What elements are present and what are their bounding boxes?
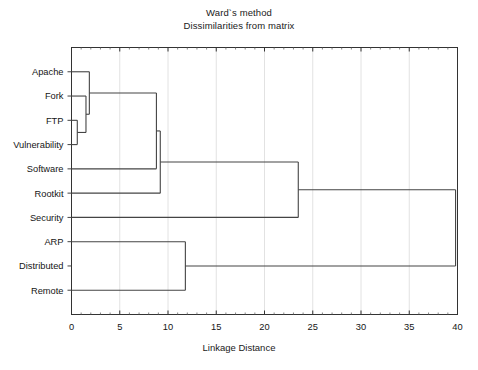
leaf-label: ARP — [44, 237, 63, 247]
x-tick-label: 30 — [356, 322, 366, 332]
x-tick-label: 25 — [308, 322, 318, 332]
leaf-label: Rootkit — [35, 189, 64, 199]
x-tick-label: 5 — [117, 322, 122, 332]
x-tick-labels: 0510152025303540 — [69, 322, 463, 332]
x-tick-label: 0 — [69, 322, 74, 332]
leaf-label: Software — [27, 164, 64, 174]
leaf-label: Vulnerability — [13, 140, 64, 150]
leaf-label: Fork — [45, 91, 64, 101]
x-tick-label: 40 — [452, 322, 462, 332]
x-tick-label: 35 — [404, 322, 414, 332]
x-tick-label: 10 — [163, 322, 173, 332]
leaf-label: FTP — [46, 116, 64, 126]
leaf-label: Apache — [32, 67, 64, 77]
dendrogram-plot: 0510152025303540 ApacheForkFTPVulnerabil… — [0, 0, 478, 370]
dendrogram-figure: Ward`s method Dissimilarities from matri… — [0, 0, 478, 370]
leaf-labels: ApacheForkFTPVulnerabilitySoftwareRootki… — [13, 67, 71, 295]
dendrogram-tree — [72, 72, 456, 290]
x-axis-title: Linkage Distance — [0, 342, 478, 353]
leaf-label: Distributed — [19, 261, 63, 271]
x-tick-label: 15 — [211, 322, 221, 332]
gridlines — [72, 48, 458, 315]
leaf-label: Security — [30, 213, 64, 223]
leaf-label: Remote — [31, 286, 64, 296]
x-tick-label: 20 — [259, 322, 269, 332]
